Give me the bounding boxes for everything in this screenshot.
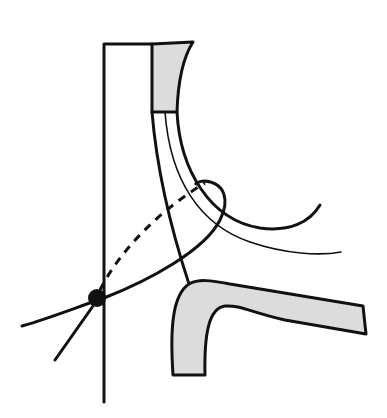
bottom-shaded-bend: [172, 281, 366, 375]
marker-dot: [88, 289, 106, 307]
dashed-path: [100, 183, 205, 290]
top-frame-line: [104, 44, 152, 402]
diagram-canvas: [0, 0, 387, 418]
thin-curve: [165, 112, 341, 254]
top-shaded-block: [152, 42, 193, 112]
thick-curve: [177, 112, 320, 229]
